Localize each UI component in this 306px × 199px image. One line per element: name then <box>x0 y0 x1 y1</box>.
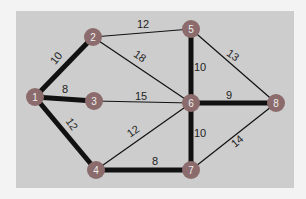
node-1: 1 <box>26 88 44 106</box>
node-label: 3 <box>91 96 97 107</box>
node-label: 5 <box>188 24 194 35</box>
edge-weight-label: 9 <box>226 89 232 101</box>
edge-weight-label: 15 <box>135 90 147 102</box>
edge-weight-label: 8 <box>152 155 158 167</box>
edge-1-4 <box>35 97 96 170</box>
node-2: 2 <box>84 28 102 46</box>
edge-weight-label: 10 <box>194 127 206 139</box>
node-6: 6 <box>182 94 200 112</box>
node-7: 7 <box>182 161 200 179</box>
node-5: 5 <box>182 20 200 38</box>
edge-weight-label: 14 <box>228 132 245 149</box>
node-3: 3 <box>85 92 103 110</box>
node-label: 7 <box>188 165 194 176</box>
edge-4-6 <box>96 103 191 170</box>
edge-weight-label: 18 <box>132 48 149 65</box>
edge-weight-label: 10 <box>47 49 64 66</box>
edge-weight-label: 12 <box>137 18 149 30</box>
node-8: 8 <box>267 94 285 112</box>
node-label: 4 <box>93 165 99 176</box>
edge-weight-label: 10 <box>194 61 206 73</box>
edge-2-5 <box>93 29 191 37</box>
edge-weight-label: 12 <box>125 123 142 140</box>
node-label: 2 <box>90 32 96 43</box>
node-label: 1 <box>32 92 38 103</box>
edge-weight-label: 8 <box>62 83 68 95</box>
node-label: 8 <box>273 98 279 109</box>
node-4: 4 <box>87 161 105 179</box>
edge-weight-label: 12 <box>64 116 81 133</box>
node-label: 6 <box>188 98 194 109</box>
weighted-graph: 1081212181512810139101412345678 <box>0 0 306 199</box>
